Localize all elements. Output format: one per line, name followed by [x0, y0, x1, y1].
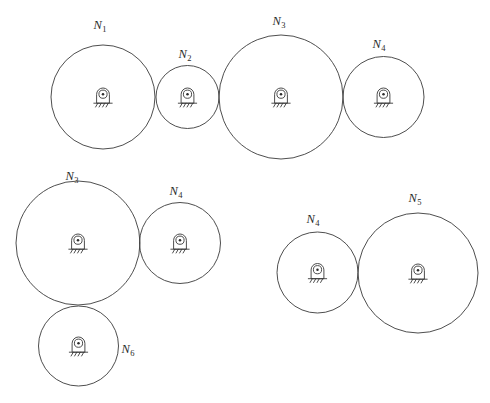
right-gear-train: N4N5 — [277, 191, 478, 333]
fixed-bearing-support-icon — [69, 234, 87, 253]
fixed-bearing-support-icon — [272, 88, 290, 107]
fixed-bearing-support-icon — [171, 234, 189, 253]
gear-label: N2 — [177, 47, 191, 63]
gear-n3[interactable]: N3 — [16, 169, 140, 305]
gear-n4[interactable]: N4 — [277, 212, 358, 313]
gear-label: N5 — [407, 191, 421, 207]
gear-n2[interactable]: N2 — [156, 47, 219, 129]
gear-label-subscript: 4 — [178, 190, 183, 200]
gear-label: N3 — [271, 14, 285, 30]
gear-label-letter: N — [371, 37, 381, 51]
gear-label-subscript: 4 — [315, 218, 320, 228]
gear-label-letter: N — [177, 47, 187, 61]
gear-label: N1 — [92, 18, 106, 34]
gear-label-subscript: 4 — [381, 43, 386, 53]
gear-label-subscript: 5 — [417, 197, 421, 207]
gear-label-letter: N — [64, 169, 74, 183]
gear-label-letter: N — [305, 212, 315, 226]
gear-label-letter: N — [407, 191, 417, 205]
fixed-bearing-support-icon — [308, 264, 326, 283]
left-gear-train: N3N4N6 — [16, 169, 221, 386]
gear-label-subscript: 1 — [102, 24, 106, 34]
gear-n3[interactable]: N3 — [219, 14, 343, 159]
fixed-bearing-support-icon — [69, 337, 87, 356]
fixed-bearing-support-icon — [409, 264, 427, 283]
fixed-bearing-support-icon — [94, 88, 112, 107]
gear-label-letter: N — [168, 184, 178, 198]
gear-label-subscript: 3 — [74, 175, 78, 185]
gear-n1[interactable]: N1 — [51, 18, 155, 149]
gear-n5[interactable]: N5 — [358, 191, 478, 333]
gear-layer: N1N2N3N4N3N4N6N4N5 — [16, 14, 478, 386]
gear-diagram-canvas: N1N2N3N4N3N4N6N4N5 — [0, 0, 490, 403]
gear-label: N4 — [371, 37, 386, 53]
gear-label: N3 — [64, 169, 78, 185]
gear-n4[interactable]: N4 — [343, 37, 424, 138]
gear-n4[interactable]: N4 — [140, 184, 221, 284]
top-gear-train: N1N2N3N4 — [51, 14, 424, 159]
gear-label-subscript: 6 — [130, 348, 134, 358]
fixed-bearing-support-icon — [374, 88, 392, 107]
gear-n6[interactable]: N6 — [39, 306, 135, 386]
gear-label-letter: N — [92, 18, 102, 32]
gear-label-letter: N — [120, 342, 130, 356]
gear-diagram: N1N2N3N4N3N4N6N4N5 — [0, 0, 490, 403]
gear-label-letter: N — [271, 14, 281, 28]
fixed-bearing-support-icon — [178, 88, 196, 107]
gear-label-subscript: 3 — [281, 20, 285, 30]
gear-label: N4 — [168, 184, 183, 200]
gear-label-subscript: 2 — [187, 53, 191, 63]
gear-label: N4 — [305, 212, 320, 228]
gear-label: N6 — [120, 342, 134, 358]
